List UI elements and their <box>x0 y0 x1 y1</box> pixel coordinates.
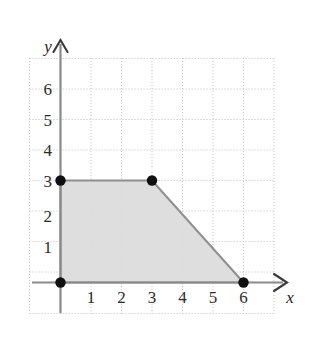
y-tick-label-4: 4 <box>44 141 53 160</box>
x-tick-label-2: 2 <box>117 288 126 307</box>
y-axis-label: y <box>42 37 52 56</box>
y-tick-label-6: 6 <box>44 80 53 99</box>
x-tick-labels: 1 2 3 4 5 6 <box>87 288 248 307</box>
vertex-point <box>55 175 65 185</box>
y-tick-labels: 1 2 3 4 5 6 <box>44 80 53 257</box>
x-tick-label-6: 6 <box>239 288 248 307</box>
coordinate-plane-svg: 1 2 3 4 5 6 1 2 3 4 5 6 y x <box>0 0 310 340</box>
graph-figure: 1 2 3 4 5 6 1 2 3 4 5 6 y x <box>0 0 310 340</box>
vertex-point <box>55 277 65 287</box>
y-tick-label-1: 1 <box>44 238 53 257</box>
x-tick-label-5: 5 <box>209 288 218 307</box>
x-tick-label-4: 4 <box>178 288 187 307</box>
vertex-point <box>147 175 157 185</box>
y-tick-label-3: 3 <box>44 172 53 191</box>
x-axis-label: x <box>285 288 294 307</box>
y-tick-label-2: 2 <box>44 207 53 226</box>
shaded-feasible-region <box>61 181 244 283</box>
y-tick-label-5: 5 <box>44 111 53 130</box>
vertex-point <box>238 277 248 287</box>
x-tick-label-1: 1 <box>87 288 96 307</box>
x-tick-label-3: 3 <box>148 288 157 307</box>
